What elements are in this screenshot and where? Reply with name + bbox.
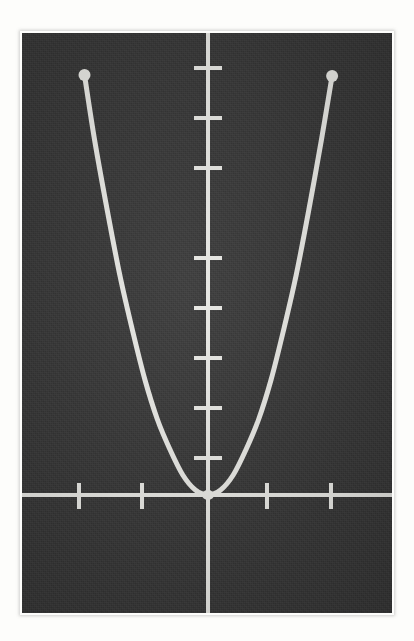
plot-field — [22, 33, 392, 613]
curve-vertex-dot — [202, 490, 214, 500]
curve-endpoint-dot-left — [79, 69, 91, 81]
figure-page — [0, 0, 414, 641]
curve-endpoint-dot-right — [326, 70, 338, 82]
graph-drawing — [22, 33, 392, 613]
photograph-of-graph — [0, 0, 414, 641]
